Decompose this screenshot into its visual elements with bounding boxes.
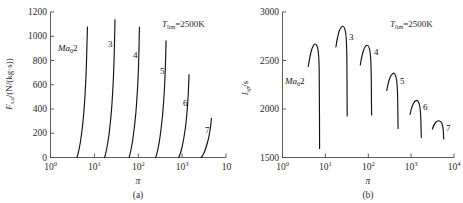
curve-b-ma3 bbox=[335, 26, 346, 116]
panel-a: 0 200 400 600 800 1000 1200 100 101 102 … bbox=[0, 0, 232, 203]
x-tick-a-10: 101 bbox=[88, 160, 101, 172]
panel-a-curve-labels: Ma02 3 4 5 6 7 bbox=[57, 39, 210, 135]
panel-b-curves bbox=[308, 26, 443, 148]
x-tick-a-100: 102 bbox=[132, 160, 145, 172]
panel-a-top-artifact bbox=[78, 1, 80, 6]
curve-label-a-3: 3 bbox=[108, 39, 113, 49]
panel-a-caption: (a) bbox=[133, 190, 144, 201]
curve-label-a-6: 6 bbox=[183, 98, 188, 108]
curve-a-ma6b bbox=[179, 75, 189, 158]
panel-a-y-axis-title: Fs,a/(N/(kg·s)) bbox=[4, 58, 15, 111]
curve-b-ma2 bbox=[308, 44, 319, 149]
x-tick-b-10: 101 bbox=[319, 160, 332, 172]
panel-b: 1500 2000 2500 3000 100 101 102 103 104 … bbox=[232, 0, 463, 203]
panel-a-curves bbox=[77, 20, 212, 158]
panel-b-caption: (b) bbox=[362, 190, 373, 201]
y-tick-a-600: 600 bbox=[33, 80, 48, 90]
panel-b-y-axis-title: Isp/s bbox=[240, 80, 251, 96]
x-tick-b-1000: 103 bbox=[404, 160, 417, 172]
x-tick-a-1: 100 bbox=[44, 160, 57, 172]
panel-a-plot: 0 200 400 600 800 1000 1200 100 101 102 … bbox=[0, 0, 232, 203]
curve-label-b-4: 4 bbox=[374, 47, 379, 57]
panel-a-y-ticks bbox=[51, 12, 55, 158]
x-tick-a-10000: 104 bbox=[222, 160, 232, 172]
curve-label-a-5: 5 bbox=[160, 66, 165, 76]
x-tick-b-100: 102 bbox=[361, 160, 374, 172]
curve-a-ma2 bbox=[77, 27, 88, 157]
panel-b-x-ticklabels: 100 101 102 103 104 bbox=[276, 160, 461, 172]
panel-b-curve-labels: Ma02 3 4 5 6 7 bbox=[284, 32, 451, 133]
curve-label-b-5: 5 bbox=[400, 76, 405, 86]
panel-b-x-axis-title: π bbox=[365, 176, 370, 186]
panel-b-x-ticks bbox=[282, 154, 454, 158]
figure-container: 0 200 400 600 800 1000 1200 100 101 102 … bbox=[0, 0, 463, 203]
panel-a-x-ticklabels: 100 101 102 103 104 bbox=[44, 160, 231, 172]
curve-label-b-6: 6 bbox=[423, 102, 428, 112]
curve-label-b-7: 7 bbox=[446, 123, 451, 133]
y-tick-a-800: 800 bbox=[33, 56, 48, 66]
y-tick-b-2500: 2500 bbox=[260, 56, 279, 66]
panel-b-axes bbox=[282, 12, 454, 158]
x-tick-a-1000: 103 bbox=[176, 160, 189, 172]
panel-a-annotation-tlim: Tlim=2500K bbox=[162, 19, 205, 30]
curve-label-b-ma2: Ma02 bbox=[284, 76, 305, 87]
curve-label-a-4: 4 bbox=[133, 50, 138, 60]
curve-label-a-7: 7 bbox=[205, 125, 210, 135]
panel-b-y-ticklabels: 1500 2000 2500 3000 bbox=[260, 7, 279, 163]
y-tick-a-200: 200 bbox=[33, 128, 48, 138]
curve-a-ma5 bbox=[156, 41, 166, 158]
y-tick-a-1000: 1000 bbox=[28, 31, 47, 41]
panel-b-plot: 1500 2000 2500 3000 100 101 102 103 104 … bbox=[232, 0, 463, 203]
x-tick-b-1: 100 bbox=[276, 160, 289, 172]
curve-b-ma6 bbox=[410, 100, 421, 137]
x-tick-b-10000: 104 bbox=[447, 160, 461, 172]
y-tick-a-1200: 1200 bbox=[28, 7, 47, 17]
curve-a-ma4 bbox=[129, 27, 139, 157]
curve-b-ma5 bbox=[386, 73, 397, 128]
curve-label-a-ma2: Ma02 bbox=[57, 43, 78, 54]
y-tick-b-3000: 3000 bbox=[260, 7, 279, 17]
panel-b-annotation-tlim: Tlim=2500K bbox=[390, 19, 433, 30]
panel-a-x-axis-title: π bbox=[136, 176, 141, 186]
y-tick-a-400: 400 bbox=[33, 104, 48, 114]
curve-b-ma4 bbox=[360, 45, 371, 115]
curve-label-b-3: 3 bbox=[349, 32, 354, 42]
curve-b-ma7 bbox=[432, 121, 443, 139]
y-tick-b-2000: 2000 bbox=[260, 104, 279, 114]
panel-a-y-ticklabels: 0 200 400 600 800 1000 1200 bbox=[28, 7, 47, 163]
